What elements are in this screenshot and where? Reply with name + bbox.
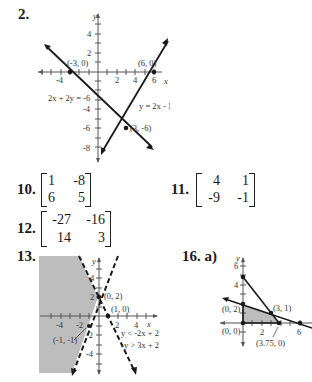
problem-2-graph: y x -4 2 4 6 4 2 -4 -6 -8 (-3, 0) (6, 0)… — [0, 0, 170, 170]
point-label: (3, 1) — [273, 303, 292, 313]
x-axis-label: x — [163, 76, 168, 86]
y-tick: -4 — [83, 104, 91, 114]
matrix-10: 1 -8 6 5 — [41, 173, 91, 207]
inequality-label: y < -2x + 2 — [121, 328, 159, 338]
point-label: (1, 0) — [111, 304, 130, 314]
point-label: (-1, -1) — [53, 335, 77, 345]
y-tick: 2 — [90, 292, 94, 302]
y-axis-label: y — [92, 11, 97, 21]
matrix-11: 4 1 -9 -1 — [196, 173, 255, 207]
matrix-cell: -16 — [86, 212, 105, 228]
matrix-cell: 1 — [242, 173, 249, 189]
x-tick: 2 — [115, 75, 119, 85]
matrix-cell: 14 — [57, 230, 71, 246]
matrix-cell: -8 — [73, 173, 85, 189]
x-tick: -4 — [56, 75, 64, 85]
point-label: (6, 0) — [138, 58, 157, 68]
matrix-cell: 6 — [48, 190, 55, 206]
y-tick: -4 — [86, 349, 94, 359]
point-label: (3, -6) — [130, 123, 151, 133]
point-label: (0, 0) — [222, 326, 241, 336]
problem-10-label: 10. — [17, 181, 36, 198]
problem-16a-graph: y 6 4 2 6 (0, 2) (3, 1) (0, 0) (3.75, 0) — [180, 250, 312, 350]
y-tick: -8 — [83, 143, 90, 153]
equation-label: y = 2x - 12 — [139, 101, 170, 111]
matrix-cell: 1 — [48, 173, 55, 189]
y-tick: 2 — [87, 48, 91, 58]
x-tick: 4 — [133, 75, 138, 85]
point-label: (0, 2) — [222, 304, 241, 314]
matrix-cell: -1 — [237, 190, 249, 206]
point-label: (3.75, 0) — [256, 338, 285, 348]
matrix-cell: 5 — [78, 190, 85, 206]
matrix-cell: 4 — [213, 173, 220, 189]
point-label: (0, 2) — [104, 291, 123, 301]
matrix-12: -27 -16 14 3 — [41, 211, 111, 247]
inequality-label: y > 3x + 2 — [124, 340, 159, 350]
x-tick: 2 — [260, 327, 264, 337]
matrix-cell: 3 — [98, 230, 105, 246]
y-tick: 6 — [234, 261, 238, 271]
point-label: (-3, 0) — [67, 58, 88, 68]
x-tick: 6 — [152, 75, 156, 85]
y-tick: -2 — [86, 330, 93, 340]
x-tick: 6 — [297, 327, 301, 337]
x-tick: 2 — [115, 320, 119, 330]
equation-label: 2x + 2y = -6 — [48, 93, 90, 103]
matrix-cell: -9 — [208, 190, 220, 206]
problem-11-label: 11. — [171, 181, 189, 198]
y-tick: 4 — [87, 29, 92, 39]
y-tick: 4 — [90, 273, 95, 283]
x-tick: -4 — [56, 320, 64, 330]
y-axis-label: y — [91, 256, 96, 266]
matrix-cell: -27 — [52, 212, 71, 228]
y-tick: 4 — [234, 280, 239, 290]
problem-13-graph: y x -4 -2 2 4 4 2 -2 -4 (0, 2) (1, 0) (-… — [0, 250, 175, 382]
problem-12-label: 12. — [17, 220, 36, 237]
x-tick: -2 — [76, 320, 83, 330]
y-tick: -6 — [83, 123, 90, 133]
